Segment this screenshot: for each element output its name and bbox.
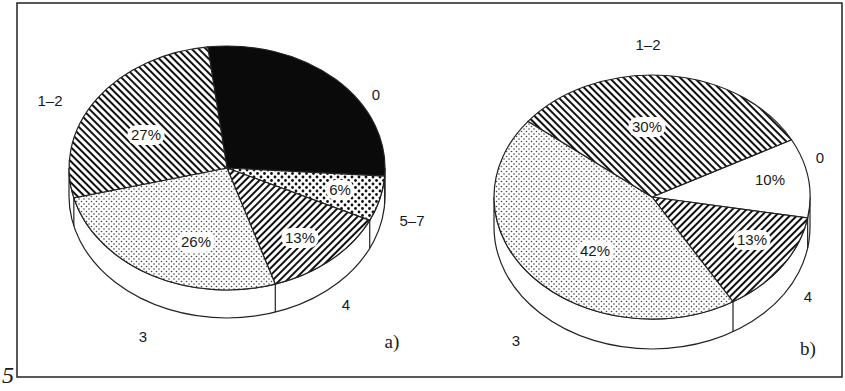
category-label: 4 — [804, 288, 812, 305]
percentage-label: 10% — [755, 171, 785, 188]
category-label: 0 — [372, 86, 380, 103]
category-label: 3 — [512, 332, 520, 349]
panel-label: b) — [800, 338, 816, 360]
percentage-label: 42% — [580, 242, 610, 259]
pie-slice-0 — [208, 46, 385, 176]
percentage-label: 13% — [285, 229, 315, 246]
category-label: 4 — [342, 296, 350, 313]
panel-label: a) — [385, 331, 400, 353]
percentage-label: 30% — [632, 118, 662, 135]
category-label: 5–7 — [399, 212, 424, 229]
percentage-label: 6% — [329, 181, 351, 198]
category-label: 3 — [139, 328, 147, 345]
percentage-label: 13% — [737, 231, 767, 248]
category-label: 0 — [816, 149, 824, 166]
figure-canvas: 05–76%413%326%1–227%a) 010%413%342%1–230… — [0, 0, 845, 391]
percentage-label: 27% — [131, 126, 161, 143]
pie-chart-a: 05–76%413%326%1–227%a) — [37, 46, 424, 353]
percentage-label: 26% — [181, 233, 211, 250]
pie-chart-b: 010%413%342%1–230%b) — [494, 36, 824, 360]
category-label: 1–2 — [635, 36, 660, 53]
category-label: 1–2 — [37, 92, 62, 109]
